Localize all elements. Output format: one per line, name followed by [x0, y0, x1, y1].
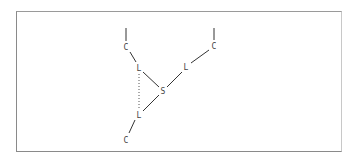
bond-l-upper-left-to-s: [143, 72, 159, 87]
atom-label-l-lower: L: [137, 111, 142, 120]
atom-label-c-bottom: C: [124, 136, 129, 145]
atom-label-c-top-right: C: [212, 42, 217, 51]
atom-label-l-upper-right: L: [184, 63, 189, 72]
bond-c-top-left-to-l-upper-left: [130, 52, 136, 62]
bond-l-upper-right-to-c-top-right: [191, 50, 209, 63]
structure-diagram: C L S L C L C: [0, 0, 357, 157]
atom-label-s-center: S: [161, 87, 166, 96]
bond-l-lower-to-c-bottom: [129, 120, 135, 133]
bond-s-to-l-lower: [143, 95, 159, 111]
bond-s-to-l-upper-right: [167, 72, 182, 87]
atom-label-c-top-left: C: [124, 43, 129, 52]
atom-label-l-upper-left: L: [137, 64, 142, 73]
